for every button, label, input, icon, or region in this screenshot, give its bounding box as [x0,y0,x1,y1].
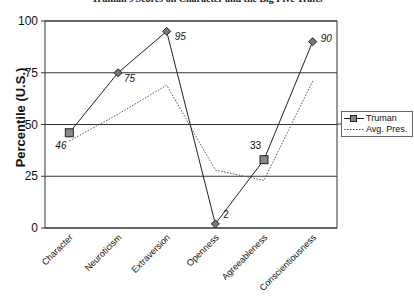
x-tick-label: Openness [185,232,221,268]
diamond-marker [211,220,219,228]
line-chart: 0255075100CharacterNeuroticismExtraversi… [0,0,414,306]
dotted-line-icon [344,124,364,135]
square-marker [260,156,268,164]
diamond-marker [309,38,317,46]
solid-line-square-marker-icon [344,113,364,124]
square-marker [65,129,73,137]
data-label: 75 [124,73,136,84]
x-tick-label: Agreeableness [220,232,270,282]
legend: Truman Avg. Pres. [341,111,413,137]
legend-item-truman: Truman [344,113,364,124]
series-truman-line [69,31,312,224]
data-label: 46 [55,140,67,151]
y-tick-label: 100 [18,14,38,28]
legend-label: Truman [366,113,397,124]
legend-label: Avg. Pres. [366,124,407,135]
x-tick-label: Extraversion [130,232,172,274]
data-label: 90 [321,33,333,44]
data-label: 2 [223,209,229,220]
y-tick-label: 0 [31,221,38,235]
x-tick-label: Neuroticism [83,232,124,273]
data-label: 33 [250,140,262,151]
data-label: 95 [175,31,187,42]
legend-item-avg-pres: Avg. Pres. [344,124,364,135]
x-tick-label: Character [40,232,75,267]
y-axis-label: Percentile (U.S.) [13,58,28,178]
